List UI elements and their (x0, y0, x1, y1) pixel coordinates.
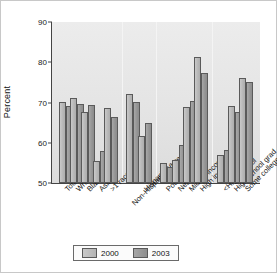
legend-swatch-2003 (133, 248, 148, 258)
y-tick-mark-90 (48, 22, 52, 23)
group-separator-1 (122, 22, 123, 183)
bar-2000-high-income (194, 57, 201, 183)
y-tick-label-60: 60 (38, 138, 47, 147)
chart-legend: 2000 2003 (73, 245, 179, 261)
bar-2000-asian (93, 161, 100, 183)
y-tick-mark-60 (48, 142, 52, 143)
bar-2000-1-race (104, 108, 111, 183)
bar-2003-some-college (246, 82, 253, 183)
bar-2000-some-college (239, 78, 246, 183)
bar-2003-high-income (201, 73, 208, 183)
bar-2000-high-school-grad (228, 106, 235, 183)
legend-item-2003: 2003 (133, 248, 170, 258)
y-tick-label-90: 90 (38, 18, 47, 27)
bar-2000-non-hispanic-white (126, 94, 133, 183)
bar-2000-poor (160, 163, 167, 183)
y-tick-mark-80 (48, 62, 52, 63)
bar-2000-near-poor (172, 160, 179, 183)
bar-2000-high-school (217, 155, 224, 183)
y-tick-label-80: 80 (38, 58, 47, 67)
bar-2000-hispanic (138, 136, 145, 183)
legend-item-2000: 2000 (82, 248, 119, 258)
bar-2003-hispanic (145, 123, 152, 183)
bar-2000-middle-income (183, 107, 190, 183)
bar-2003-1-race (111, 117, 118, 183)
group-separator-2 (156, 22, 157, 183)
legend-swatch-2000 (82, 248, 97, 258)
y-axis-label: Percent (2, 86, 12, 118)
legend-label-2000: 2000 (101, 249, 119, 258)
plot-area: 5060708090 (51, 22, 260, 184)
y-tick-mark-70 (48, 102, 52, 103)
bar-2000-white (70, 98, 77, 183)
y-tick-label-70: 70 (38, 98, 47, 107)
bar-chart-figure: Percent 5060708090 TotalWhiteBlackAsian>… (0, 0, 277, 273)
y-tick-mark-50 (48, 183, 52, 184)
bar-2000-black (81, 112, 88, 183)
legend-label-2003: 2003 (152, 249, 170, 258)
bar-2000-total (59, 102, 66, 183)
y-tick-label-50: 50 (38, 179, 47, 188)
